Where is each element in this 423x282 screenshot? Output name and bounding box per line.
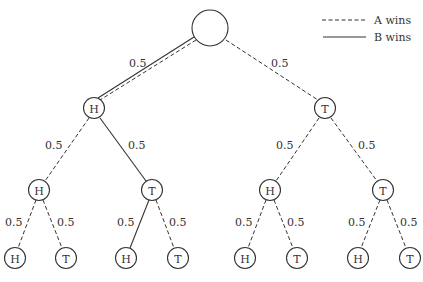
node-label: T	[406, 253, 414, 266]
node-label: T	[293, 253, 301, 266]
prob-label: 0.5	[128, 139, 146, 152]
prob-label: 0.5	[5, 216, 23, 229]
prob-label: 0.5	[400, 216, 418, 229]
edge-root-t	[226, 40, 318, 100]
node-label: H	[121, 253, 131, 266]
node-label: H	[265, 185, 275, 198]
node-label: T	[321, 103, 329, 116]
edge-labels: 0.5 0.5 0.5 0.5 0.5 0.5 0.5 0.5 0.5 0.5 …	[5, 57, 418, 229]
root-node	[192, 10, 228, 46]
legend-label-a: A wins	[373, 14, 411, 27]
node-label: T	[148, 185, 156, 198]
node-label: H	[353, 253, 363, 266]
prob-label: 0.5	[45, 139, 63, 152]
prob-label: 0.5	[287, 216, 305, 229]
legend: A wins B wins	[322, 14, 412, 44]
prob-label: 0.5	[169, 216, 187, 229]
node-label: T	[379, 185, 387, 198]
node-label: H	[89, 103, 99, 116]
probability-tree-diagram: 0.5 0.5 0.5 0.5 0.5 0.5 0.5 0.5 0.5 0.5 …	[0, 0, 423, 282]
prob-label: 0.5	[235, 216, 253, 229]
prob-label: 0.5	[117, 216, 135, 229]
node-label: H	[10, 253, 20, 266]
prob-label: 0.5	[129, 57, 147, 70]
prob-label: 0.5	[57, 216, 75, 229]
prob-label: 0.5	[348, 216, 366, 229]
prob-label: 0.5	[276, 139, 294, 152]
edge-root-h-a	[100, 40, 196, 100]
node-label: T	[174, 253, 182, 266]
node-label: T	[62, 253, 70, 266]
prob-label: 0.5	[358, 139, 376, 152]
legend-label-b: B wins	[374, 31, 412, 44]
node-label: H	[240, 253, 250, 266]
node-label: H	[34, 185, 44, 198]
prob-label: 0.5	[271, 57, 289, 70]
